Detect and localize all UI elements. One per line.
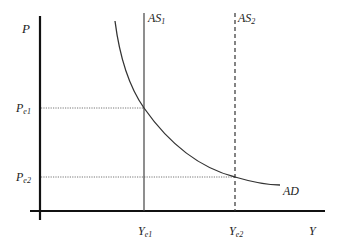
ad-as-diagram: P Y Pe1 Pe2 Ye1 Ye2 AS1 AS2 AD (0, 0, 340, 247)
pe1-label: Pe1 (15, 101, 31, 116)
ad-curve (115, 21, 280, 185)
pe2-label: Pe2 (15, 170, 31, 185)
x-axis-label: Y (309, 224, 317, 238)
ye1-label: Ye1 (138, 224, 152, 239)
as2-label: AS2 (237, 11, 255, 26)
as1-label: AS1 (147, 11, 165, 26)
y-axis-label: P (21, 21, 30, 36)
ad-label: AD (282, 184, 299, 198)
ye2-label: Ye2 (229, 224, 243, 239)
